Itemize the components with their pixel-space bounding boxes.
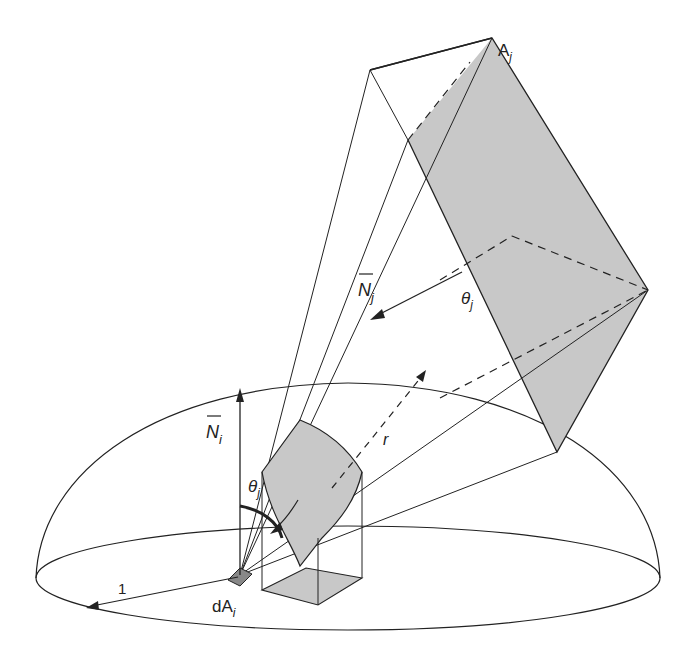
label-nj: Nj [358, 280, 375, 305]
label-ni: Ni [206, 422, 223, 447]
normal-nj-arrowhead [370, 309, 385, 320]
unit-radius-arrowhead [86, 601, 99, 610]
hemisphere-projection [262, 420, 362, 566]
r-arrowhead [416, 370, 426, 382]
nusselt-analog-diagram: Aj Nj θj r Ni θj 1 dAi [0, 0, 683, 652]
label-theta-j-upper: θj [461, 289, 473, 312]
normal-nj-arrow [376, 272, 462, 316]
base-projection-top [262, 568, 362, 605]
ray-6 [370, 70, 408, 140]
label-r: r [383, 431, 389, 448]
label-theta-j-lower: θj [248, 477, 260, 500]
label-unit-radius: 1 [118, 580, 126, 597]
label-dai: dAi [212, 597, 236, 620]
